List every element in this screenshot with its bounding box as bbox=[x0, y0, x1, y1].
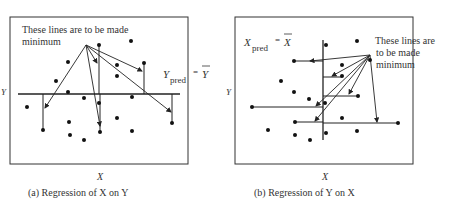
svg-text:X: X bbox=[243, 36, 252, 48]
annotation-text-b-line1: These lines are bbox=[375, 35, 436, 46]
annotation-text-line1: These lines are to be made bbox=[22, 24, 129, 35]
caption-b: (b) Regression of Y on X bbox=[254, 187, 355, 199]
annotation-text-b-line2: to be made bbox=[376, 47, 420, 58]
svg-text:=: = bbox=[275, 35, 280, 45]
svg-text:pred: pred bbox=[252, 43, 268, 53]
panel-a: Y These li bbox=[1, 17, 210, 199]
annotation-arrows bbox=[45, 45, 171, 126]
svg-text:=: = bbox=[193, 67, 198, 77]
x-axis-label: X bbox=[96, 171, 104, 182]
x-axis-label-b: X bbox=[321, 171, 329, 182]
y-pred-label: Y pred = Y bbox=[163, 66, 210, 85]
annotation-text-b-line3: minimum bbox=[376, 59, 415, 70]
caption-a: (a) Regression of X on Y bbox=[28, 187, 128, 199]
y-axis-label-b: Y bbox=[226, 87, 232, 97]
y-axis-label: Y bbox=[1, 87, 7, 97]
annotation-text-line2: minimum bbox=[22, 36, 61, 47]
svg-text:Y: Y bbox=[202, 68, 210, 80]
x-pred-label: X pred = X bbox=[243, 34, 292, 53]
svg-text:X: X bbox=[283, 36, 292, 48]
regression-diagram: Y These li bbox=[0, 0, 469, 209]
vertical-deviations bbox=[43, 45, 172, 132]
svg-text:pred: pred bbox=[170, 75, 186, 85]
panel-b: Y X bbox=[226, 17, 436, 199]
